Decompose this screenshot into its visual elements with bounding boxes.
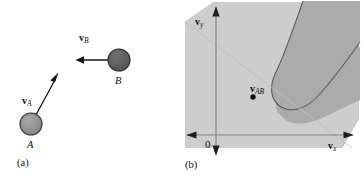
panel-b-caption: (b): [185, 160, 197, 171]
vector-a-label: vA: [22, 96, 32, 106]
ball-b: [108, 49, 130, 71]
y-axis-arrowhead-down: [212, 146, 219, 157]
vector-b-arrowhead: [76, 56, 85, 63]
vector-a-arrowhead: [50, 73, 58, 83]
panel-b-graphics: [182, 0, 364, 184]
ball-a: [20, 113, 42, 135]
ball-a-label: A: [27, 140, 33, 151]
relative-velocity-label: vAB: [250, 84, 264, 94]
y-axis-label: vy: [195, 17, 203, 27]
panel-a: vA vB A B (a): [0, 0, 182, 184]
ball-b-label: B: [115, 76, 121, 87]
panel-a-caption: (a): [17, 158, 29, 169]
vector-b-label: vB: [79, 33, 89, 43]
figure-container: vA vB A B (a): [0, 0, 364, 184]
x-axis-label: vx: [328, 141, 336, 151]
origin-label: 0: [205, 139, 211, 150]
panel-b: vy vx 0 vAB (b): [182, 0, 364, 184]
